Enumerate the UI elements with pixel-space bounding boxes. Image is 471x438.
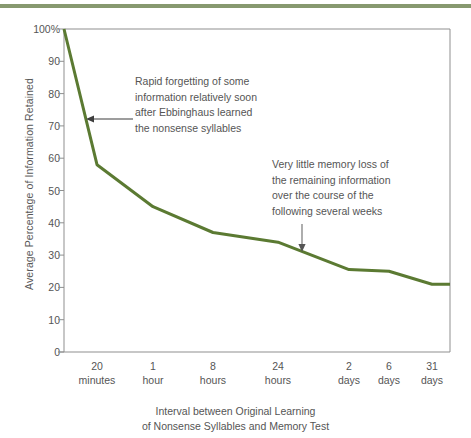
x-axis-title: Interval between Original Learning of No…	[0, 404, 471, 434]
x-tick-value: 31	[392, 360, 471, 374]
x-tick-24-hours: 24 hours	[238, 360, 318, 387]
plot-frame	[64, 29, 450, 352]
annotation-rapid-forgetting: Rapid forgetting of some information rel…	[135, 74, 257, 136]
annotation-line: following several weeks	[272, 204, 390, 220]
x-tick-31-days: 31 days	[392, 360, 471, 387]
annotation-line: information relatively soon	[135, 90, 257, 106]
annotation-line: the nonsense syllables	[135, 121, 257, 137]
annotation-little-memory-loss: Very little memory loss of the remaining…	[272, 157, 390, 219]
annotation-line: over the course of the	[272, 188, 390, 204]
x-axis-title-line-1: Interval between Original Learning	[0, 404, 471, 419]
annotation-line: Rapid forgetting of some	[135, 74, 257, 90]
annotation-1-arrow	[86, 115, 133, 122]
x-axis-title-line-2: of Nonsense Syllables and Memory Test	[0, 419, 471, 434]
x-tick-unit: days	[392, 374, 471, 388]
y-tick-marks	[58, 29, 64, 352]
annotation-2-arrow	[298, 224, 305, 252]
x-tick-value: 24	[238, 360, 318, 374]
x-tick-unit: hours	[238, 374, 318, 388]
forgetting-curve-line	[64, 29, 450, 284]
annotation-line: after Ebbinghaus learned	[135, 105, 257, 121]
annotation-line: Very little memory loss of	[272, 157, 390, 173]
annotation-line: the remaining information	[272, 173, 390, 189]
forgetting-curve-figure: Average Percentage of Information Retain…	[0, 0, 471, 438]
